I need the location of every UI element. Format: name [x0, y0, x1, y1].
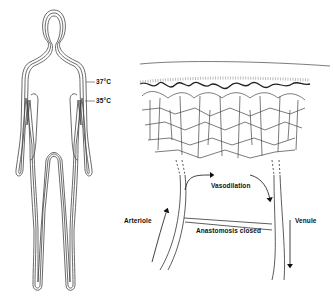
arteriole-label: Arteriole: [124, 217, 152, 224]
diagram-canvas: [0, 0, 333, 304]
venule-label: Venule: [295, 217, 317, 224]
vasodilation-label: Vasodilation: [211, 182, 251, 189]
vessels: [160, 160, 285, 280]
isotherm-37-label: 37°C: [96, 78, 111, 85]
isotherm-35-label: 35°C: [96, 97, 111, 104]
anastomosis-label: Anastomosis closed: [196, 227, 261, 234]
body-figure: [16, 10, 92, 290]
skin-section: [140, 62, 330, 158]
